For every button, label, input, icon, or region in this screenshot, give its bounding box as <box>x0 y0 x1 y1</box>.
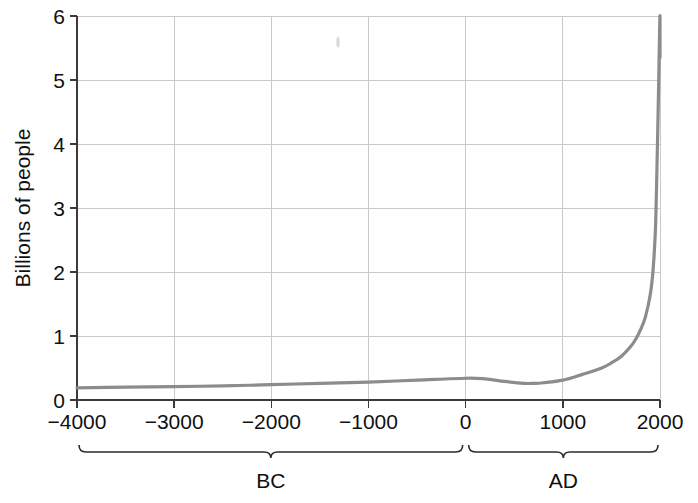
era-label-ad: AD <box>549 469 578 492</box>
scan-artifact <box>336 37 339 48</box>
era-annotations: BCAD <box>79 445 658 492</box>
x-tick-label: 0 <box>460 410 472 433</box>
x-tick-label: 2000 <box>637 410 684 433</box>
x-axis-ticks: −4000−3000−2000−1000010002000 <box>48 400 684 433</box>
era-brace-ad <box>469 445 658 458</box>
y-tick-label: 2 <box>53 261 65 284</box>
y-axis-title: Billions of people <box>11 129 34 288</box>
era-label-bc: BC <box>256 469 285 492</box>
x-tick-label: 1000 <box>539 410 586 433</box>
x-tick-label: −4000 <box>48 410 107 433</box>
y-tick-label: 5 <box>53 69 65 92</box>
y-tick-label: 4 <box>53 133 65 156</box>
x-tick-label: −1000 <box>339 410 398 433</box>
population-line-chart: 0123456 −4000−3000−2000−1000010002000 Bi… <box>0 0 698 503</box>
gridlines <box>77 16 660 400</box>
chart-canvas: 0123456 −4000−3000−2000−1000010002000 Bi… <box>0 0 698 503</box>
x-tick-label: −3000 <box>145 410 204 433</box>
y-tick-label: 6 <box>53 5 65 28</box>
x-tick-label: −2000 <box>242 410 301 433</box>
scan-speck <box>336 37 339 48</box>
y-tick-label: 1 <box>53 325 65 348</box>
y-tick-label: 3 <box>53 197 65 220</box>
era-brace-bc <box>79 445 463 458</box>
y-axis-ticks: 0123456 <box>53 5 77 412</box>
y-axis-title-group: Billions of people <box>11 129 34 288</box>
y-tick-label: 0 <box>53 389 65 412</box>
